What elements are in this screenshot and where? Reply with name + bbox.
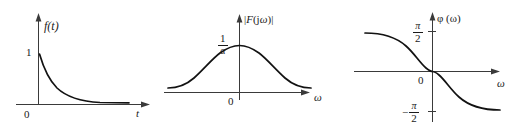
y-axis-arrowhead: [36, 13, 42, 22]
panel-magnitude-spectrum: |F(jω)| 1 α 0 ω: [160, 0, 340, 136]
fraction-pi-over-2: π 2: [413, 21, 423, 44]
fraction-one-over-alpha: 1 α: [218, 33, 228, 56]
axis-label-t: t: [136, 108, 139, 119]
fraction-numerator: 1: [218, 33, 228, 46]
fraction-numerator: π: [409, 101, 419, 113]
axis-label-phi-omega: φ (ω): [437, 13, 461, 24]
minus-sign-glyph: −: [402, 107, 409, 118]
fraction-pi-over-2: π 2: [409, 101, 419, 124]
x-axis-arrowhead: [491, 69, 500, 75]
fraction-denominator: α: [218, 46, 228, 57]
exponential-decay-curve: [40, 54, 130, 103]
origin-label: 0: [228, 96, 234, 107]
axis-label-omega: ω: [497, 78, 505, 89]
x-axis-arrowhead: [141, 102, 150, 108]
F-glyph: F: [246, 13, 253, 25]
y-tick-label-pi-over-2: π 2: [413, 21, 423, 44]
fraction-numerator: π: [413, 21, 423, 33]
origin-label: 0: [418, 75, 424, 86]
axis-label-magnitude-F-jomega: |F(jω)|: [244, 14, 273, 25]
y-axis-arrowhead: [237, 14, 243, 23]
minus-pi-over-2-group: − π 2: [402, 101, 419, 124]
bar-right-glyph: |: [271, 13, 273, 25]
fourier-transform-figure: f(t) 1 0 t |F(jω)| 1 α 0 ω: [0, 0, 521, 136]
x-axis-arrowhead: [301, 90, 310, 96]
fraction-denominator: 2: [409, 113, 419, 125]
peak-value-label-one-over-alpha: 1 α: [218, 33, 228, 56]
fraction-denominator: 2: [413, 33, 423, 45]
phase-plot: [340, 0, 521, 136]
panel-time-domain-signal: f(t) 1 0 t: [0, 0, 170, 136]
y-axis-arrowhead: [430, 12, 436, 21]
axis-label-f-of-t: f(t): [44, 20, 59, 32]
y-tick-label-one: 1: [26, 47, 32, 58]
y-tick-label-minus-pi-over-2: − π 2: [402, 101, 419, 124]
origin-label: 0: [24, 109, 30, 120]
panel-phase-spectrum: φ (ω) π 2 0 − π 2 ω: [340, 0, 521, 136]
axis-label-omega: ω: [314, 92, 322, 103]
